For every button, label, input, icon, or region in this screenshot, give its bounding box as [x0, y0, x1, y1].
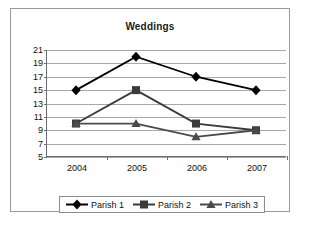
legend-item[interactable]: Parish 1 [66, 199, 124, 210]
legend-diamond-icon [66, 199, 88, 210]
chart-frame: Weddings 2119171513119752004200520062007… [10, 8, 290, 212]
data-point-marker [71, 85, 80, 95]
chart-title: Weddings [11, 21, 289, 32]
data-point-marker [72, 200, 81, 210]
legend-label: Parish 1 [91, 200, 124, 210]
data-point-marker [192, 120, 200, 128]
chart-legend: Parish 1Parish 2Parish 3 [59, 196, 265, 213]
legend-triangle-icon [200, 199, 222, 210]
y-axis-tick-label: 7 [38, 139, 43, 149]
y-axis-tick-label: 9 [38, 125, 43, 135]
y-axis-tick-label: 21 [33, 45, 43, 55]
legend-label: Parish 3 [225, 200, 258, 210]
x-axis-tick-label: 2006 [187, 163, 207, 173]
y-axis-tick-label: 13 [33, 99, 43, 109]
plot-wrap: 2119171513119752004200520062007 [46, 50, 286, 157]
legend-square-icon [133, 199, 155, 210]
data-point-marker [251, 85, 260, 95]
legend-label: Parish 2 [158, 200, 191, 210]
data-point-marker [140, 201, 148, 209]
data-point-marker [132, 86, 140, 94]
y-axis-tick-label: 15 [33, 85, 43, 95]
x-axis-tick-label: 2005 [127, 163, 147, 173]
legend-item[interactable]: Parish 3 [200, 199, 258, 210]
data-point-marker [131, 52, 140, 62]
y-axis-tick-label: 11 [34, 112, 43, 122]
data-point-marker [191, 72, 200, 82]
y-tick-mark [44, 157, 47, 158]
x-tick-mark [287, 156, 288, 160]
series-lines [46, 50, 286, 157]
x-axis-tick-label: 2004 [67, 163, 87, 173]
y-axis-tick-label: 19 [33, 58, 43, 68]
series-line [76, 57, 256, 90]
x-axis-tick-label: 2007 [247, 163, 267, 173]
legend-item[interactable]: Parish 2 [133, 199, 191, 210]
y-axis-tick-label: 17 [33, 72, 43, 82]
series-line [76, 124, 256, 137]
y-axis-tick-label: 5 [38, 152, 43, 162]
